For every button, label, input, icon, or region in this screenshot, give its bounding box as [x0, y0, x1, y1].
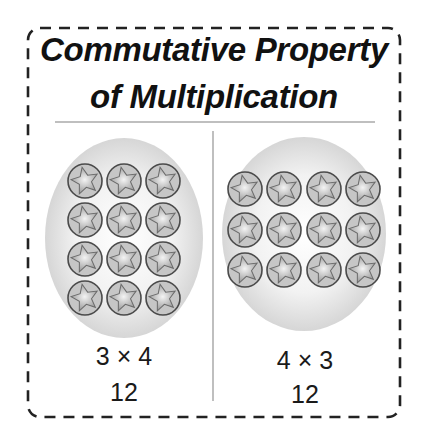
title-line-1: Commutative Property — [27, 30, 401, 70]
right-product: 12 — [230, 379, 380, 409]
left-expression: 3 × 4 — [49, 341, 199, 371]
left-array-group — [45, 138, 203, 338]
right-expression: 4 × 3 — [230, 345, 380, 375]
title-line-2: of Multiplication — [27, 77, 401, 117]
left-product: 12 — [49, 377, 199, 407]
right-array-group — [222, 137, 386, 331]
